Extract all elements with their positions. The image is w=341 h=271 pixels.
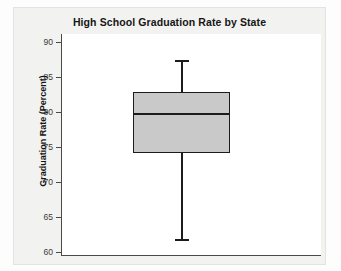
y-tick-mark-70 <box>56 182 61 183</box>
median-line <box>133 113 230 115</box>
box-iqr-rect <box>133 92 230 153</box>
y-tick-mark-75 <box>56 147 61 148</box>
lower-whisker-cap <box>175 239 189 241</box>
upper-whisker-line <box>181 60 183 92</box>
y-axis-line <box>61 34 62 256</box>
x-axis-line <box>61 255 321 256</box>
page-title: High School Graduation Rate by State <box>14 16 325 28</box>
y-tick-mark-60 <box>56 252 61 253</box>
y-tick-mark-90 <box>56 42 61 43</box>
chart-figure-card: High School Graduation Rate by State 90 … <box>14 8 325 264</box>
screenshot-root: High School Graduation Rate by State 90 … <box>0 0 341 271</box>
y-tick-label-60: 60 <box>27 247 53 257</box>
lower-whisker-line <box>181 153 183 240</box>
y-tick-mark-85 <box>56 77 61 78</box>
y-tick-mark-65 <box>56 217 61 218</box>
y-axis-title: Graduation Rate (Percent) <box>38 46 48 216</box>
y-tick-mark-80 <box>56 112 61 113</box>
upper-whisker-cap <box>175 60 189 62</box>
